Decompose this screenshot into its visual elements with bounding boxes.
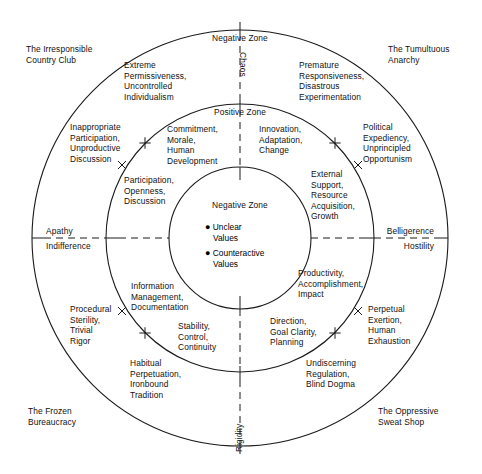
- outer-zone-label: Negative Zone: [190, 33, 290, 44]
- middle-item-stability-control: Stability, Control, Continuity: [178, 321, 216, 353]
- corner-label-top-left: The Irresponsible Country Club: [26, 44, 92, 65]
- axis-label-rigidity: Rigidity: [234, 424, 245, 452]
- middle-item-participation-openness: Participation, Openness, Discussion: [124, 175, 174, 207]
- outer-item-habitual-perpetuation: Habitual Perpetuation, Ironbound Traditi…: [130, 358, 181, 400]
- middle-item-external-support: External Support, Resource Acquisition, …: [311, 169, 355, 222]
- outer-item-premature-responsiveness: Premature Responsiveness, Disastrous Exp…: [299, 60, 364, 102]
- middle-item-direction-goal-clarity: Direction, Goal Clarity, Planning: [270, 316, 317, 348]
- axis-label-hostility: Hostility: [340, 241, 434, 252]
- zones-diagram: The Irresponsible Country Club The Tumul…: [0, 0, 482, 474]
- bullet-dot-icon: ●: [205, 248, 210, 258]
- core-bullet-unclear-values: ● Unclear Values: [205, 222, 295, 243]
- core-bullet-list: ● Unclear Values ● Counteractive Values: [205, 222, 295, 274]
- outer-item-political-expediency: Political Expediency, Unprincipled Oppor…: [363, 122, 412, 164]
- outer-item-inappropriate-participation: Inappropriate Participation, Unproductiv…: [70, 122, 121, 164]
- outer-item-undiscerning-regulation: Undiscerning Regulation, Blind Dogma: [306, 358, 356, 390]
- axis-label-chaos: Chaos: [237, 52, 248, 77]
- middle-zone-label: Positive Zone: [190, 107, 290, 118]
- bullet-dot-icon: ●: [205, 222, 210, 232]
- axis-label-apathy: Apathy: [46, 226, 73, 237]
- corner-label-bottom-right: The Oppressive Sweat Shop: [378, 406, 439, 427]
- corner-label-bottom-left: The Frozen Bureaucracy: [28, 406, 76, 427]
- middle-item-information-management: Information Management, Documentation: [131, 281, 189, 313]
- corner-label-top-right: The Tumultuous Anarchy: [388, 44, 449, 65]
- core-zone-label: Negative Zone: [190, 200, 290, 211]
- core-bullet-counteractive-values: ● Counteractive Values: [205, 248, 295, 269]
- axis-label-indifference: Indifference: [46, 241, 91, 252]
- middle-item-innovation-adaptation: Innovation, Adaptation, Change: [259, 124, 302, 156]
- outer-item-perpetual-exertion: Perpetual Exertion, Human Exhaustion: [368, 304, 410, 346]
- axis-label-belligerence: Belligerence: [340, 226, 434, 237]
- middle-item-productivity-accomplishment: Productivity, Accomplishment, Impact: [298, 268, 363, 300]
- outer-item-procedural-sterility: Procedural Sterility, Trivial Rigor: [70, 304, 112, 346]
- middle-item-commitment-morale: Commitment, Morale, Human Development: [167, 124, 218, 166]
- outer-item-extreme-permissiveness: Extreme Permissiveness, Uncontrolled Ind…: [124, 60, 186, 102]
